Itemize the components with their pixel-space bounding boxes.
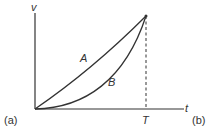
velocity-time-diagram: v t T A B (a) (b) (0, 0, 213, 138)
curve-a-label: A (79, 52, 87, 64)
x-axis-label: t (185, 102, 189, 114)
y-axis-label: v (31, 1, 38, 13)
curve-a (35, 16, 146, 109)
curve-b-label: B (108, 76, 115, 88)
t-tick-label: T (142, 114, 150, 126)
curve-b (35, 16, 146, 109)
endpoint-dot (145, 15, 148, 18)
panel-label-a: (a) (4, 114, 17, 126)
panel-label-b: (b) (192, 114, 205, 126)
